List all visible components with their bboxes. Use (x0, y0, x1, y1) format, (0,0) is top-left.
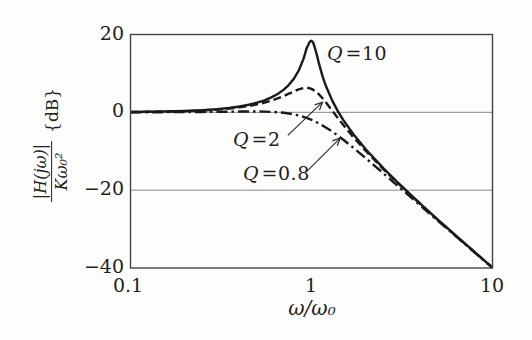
annotation-q0.8: Q=0.8 (243, 162, 310, 184)
ytick-20: 20 (72, 21, 124, 45)
annotation-q10-value: =10 (346, 42, 388, 64)
annotation-arrow-q-2 (288, 102, 323, 135)
annotation-q2: Q=2 (233, 128, 281, 150)
annotation-arrow-q-0.8 (306, 138, 340, 172)
y-axis-label: |H(jω)| Kω₀² {dB} (32, 88, 72, 202)
annotation-q0.8-symbol: Q (243, 162, 259, 184)
bode-magnitude-figure: |H(jω)| Kω₀² {dB} 20 0 −20 −40 0.1 1 10 … (0, 0, 532, 340)
plot-frame (131, 35, 493, 269)
y-axis-numerator: |H(jω)| (32, 141, 52, 202)
x-axis-label: ω/ω₀ (270, 296, 354, 320)
annotation-q2-symbol: Q (233, 128, 249, 150)
xtick-0.1: 0.1 (106, 273, 150, 297)
xtick-1: 1 (289, 273, 333, 297)
ytick-minus20: −20 (72, 176, 124, 200)
annotation-q2-value: =2 (252, 128, 281, 150)
curve-q-2 (131, 88, 493, 268)
y-axis-unit: {dB} (42, 88, 62, 133)
y-axis-denominator: Kω₀² (53, 153, 72, 191)
annotation-q0.8-value: =0.8 (262, 162, 310, 184)
annotation-q10-symbol: Q (327, 42, 343, 64)
ytick-0: 0 (72, 98, 124, 122)
annotation-q10: Q=10 (327, 42, 387, 64)
y-axis-fraction: |H(jω)| Kω₀² (32, 141, 72, 202)
xtick-10: 10 (470, 273, 514, 297)
curve-q-10 (131, 41, 493, 268)
